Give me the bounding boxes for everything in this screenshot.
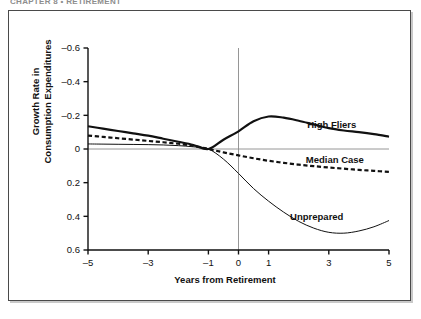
y-axis-title-line2: Consumption Expenditures bbox=[41, 17, 53, 187]
plot-area: 0.60.40.20–0.2–0.4–0.6–5–3–10135High Fli… bbox=[0, 0, 421, 319]
y-tick-label: 0.4 bbox=[67, 211, 80, 222]
figure-page: CHAPTER 8 • RETIREMENT 0.60.40.20–0.2–0.… bbox=[0, 0, 421, 319]
y-axis-title-line1: Growth Rate in bbox=[30, 17, 42, 187]
y-tick-label: –0.4 bbox=[62, 76, 81, 87]
y-tick-label: 0.2 bbox=[67, 177, 80, 188]
x-tick-label: 5 bbox=[386, 257, 391, 268]
x-tick-label: 3 bbox=[326, 257, 331, 268]
x-tick-label: 0 bbox=[236, 257, 241, 268]
series-label-high-fliers: High Fliers bbox=[307, 119, 356, 130]
x-tick-label: 1 bbox=[266, 257, 271, 268]
series-label-median-case: Median Case bbox=[306, 154, 364, 165]
x-axis-title: Years from Retirement bbox=[60, 274, 390, 285]
x-tick-label: –5 bbox=[83, 257, 94, 268]
y-tick-label: 0 bbox=[75, 143, 80, 154]
y-tick-label: 0.6 bbox=[67, 244, 80, 255]
y-tick-label: –0.6 bbox=[62, 42, 81, 53]
x-tick-label: –3 bbox=[143, 257, 154, 268]
y-axis-title: Growth Rate in Consumption Expenditures bbox=[30, 17, 53, 187]
line-chart: 0.60.40.20–0.2–0.4–0.6–5–3–10135High Fli… bbox=[0, 0, 421, 319]
series-label-unprepared: Unprepared bbox=[290, 211, 344, 222]
y-tick-label: –0.2 bbox=[62, 110, 81, 121]
x-tick-label: –1 bbox=[203, 257, 214, 268]
